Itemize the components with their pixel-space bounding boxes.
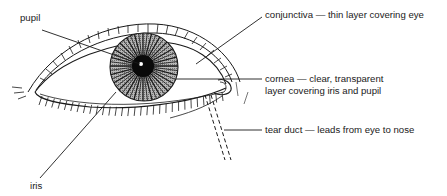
pupil — [132, 55, 154, 77]
tear-duct — [205, 95, 231, 160]
eye-diagram — [0, 0, 447, 196]
cornea-label-line1: cornea — clear, transparent — [265, 73, 383, 84]
iris-leader — [40, 92, 116, 178]
iris-label: iris — [30, 180, 42, 191]
left-corner-lashes — [12, 87, 26, 99]
pupil-label: pupil — [20, 12, 40, 23]
tear-duct-label: tear duct — leads from eye to nose — [265, 124, 414, 135]
conjunctiva-leader — [196, 17, 262, 64]
cheek-contour — [170, 96, 222, 118]
conjunctiva-label: conjunctiva — thin layer covering eye — [265, 9, 424, 20]
cornea-label-line2: layer covering iris and pupil — [265, 85, 381, 96]
